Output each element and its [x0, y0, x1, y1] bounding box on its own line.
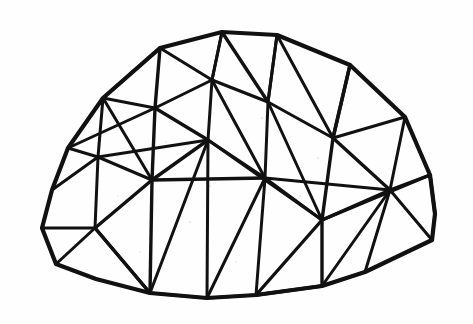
paper-speckle: [291, 247, 292, 248]
drawing-background: [0, 0, 473, 324]
paper-speckle: [139, 251, 140, 252]
paper-speckle: [401, 211, 402, 212]
paper-speckle: [235, 261, 236, 262]
paper-speckle: [117, 195, 118, 196]
paper-speckle: [343, 103, 344, 104]
paper-speckle: [299, 195, 300, 196]
dome-strut: [207, 140, 208, 298]
paper-speckle: [165, 141, 166, 142]
paper-speckle: [355, 231, 357, 233]
paper-speckle: [91, 133, 92, 134]
paper-speckle: [317, 157, 318, 158]
dome-strut: [150, 180, 152, 293]
paper-speckle: [189, 221, 191, 223]
paper-speckle: [73, 243, 74, 244]
geodesic-dome-drawing: Hand-drawn line sketch of a hemispherica…: [0, 0, 473, 324]
dome-illustration-root: Hand-drawn line sketch of a hemispherica…: [0, 0, 473, 324]
paper-speckle: [209, 185, 210, 186]
paper-speckle: [261, 117, 263, 119]
